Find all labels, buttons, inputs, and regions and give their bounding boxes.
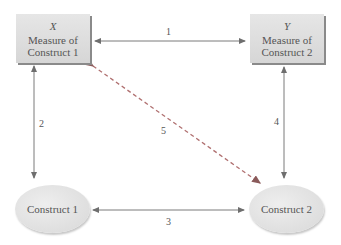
edge-1-label: 1 bbox=[166, 26, 171, 37]
construct-1-label: Construct 1 bbox=[27, 203, 78, 215]
edge-4-label: 4 bbox=[274, 116, 279, 127]
measure-x-box: X Measure of Construct 1 bbox=[16, 14, 90, 63]
variable-y-label: Y bbox=[250, 20, 324, 32]
variable-x-label: X bbox=[16, 20, 90, 32]
edge-5-dashed bbox=[93, 66, 260, 183]
edge-2-label: 2 bbox=[39, 118, 44, 129]
edge-5-label: 5 bbox=[161, 125, 166, 136]
construct-1-node: Construct 1 bbox=[15, 185, 90, 233]
measure-x-line1: Measure of bbox=[16, 34, 90, 46]
measure-y-line2: Construct 2 bbox=[250, 46, 324, 58]
construct-2-node: Construct 2 bbox=[249, 185, 324, 233]
measure-x-line2: Construct 1 bbox=[16, 46, 90, 58]
construct-2-label: Construct 2 bbox=[261, 203, 312, 215]
edge-3-label: 3 bbox=[166, 216, 171, 227]
measure-y-box: Y Measure of Construct 2 bbox=[250, 14, 324, 63]
measure-y-line1: Measure of bbox=[250, 34, 324, 46]
